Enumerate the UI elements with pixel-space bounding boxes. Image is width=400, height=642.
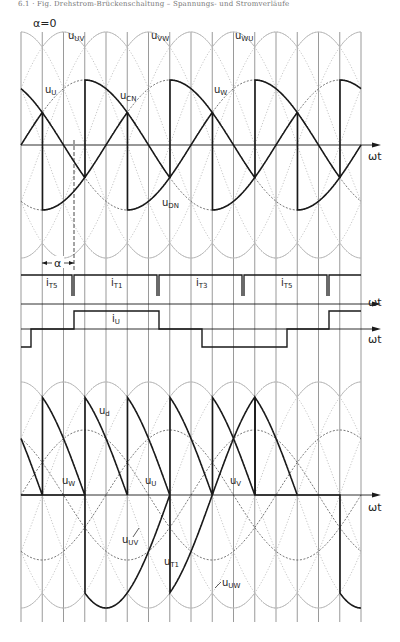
u-uw-leader-line <box>215 582 221 588</box>
u-d-label: ud <box>99 405 110 418</box>
u-w-bot-label: uW <box>62 475 75 488</box>
i-u-label: iU <box>112 313 120 326</box>
u-uv-bot-label: uUV <box>122 534 138 547</box>
time-axes <box>21 143 381 498</box>
i-t5-b-label: iT5 <box>281 277 293 290</box>
waveform-diagram: α=0 uUV uVW uWU uU uCN uW uDN ωt ωt ωt ω… <box>0 0 400 642</box>
u-uv-label: uUV <box>68 30 84 43</box>
u-t1-label: uT1 <box>164 556 179 569</box>
alpha-zero-label: α=0 <box>33 17 56 30</box>
u-v-bot-label: uV <box>230 475 241 488</box>
i-t1-label: iT1 <box>111 277 123 290</box>
u-wu-label: uWU <box>235 30 253 43</box>
u-vw-label: uVW <box>151 30 169 43</box>
u-dn-label: uDN <box>162 197 179 210</box>
omega-t-label-3: ωt <box>368 333 382 346</box>
omega-t-label-4: ωt <box>368 501 382 514</box>
u-uw-label: uUW <box>222 577 240 590</box>
omega-t-label-1: ωt <box>368 150 382 163</box>
svg-text:α: α <box>54 257 61 270</box>
u-w-top-label: uW <box>214 84 227 97</box>
u-cn-label: uCN <box>120 90 136 103</box>
u-u-bot-label: uU <box>145 475 156 488</box>
vertical-grid-lines <box>21 32 361 622</box>
u-u-top-label: uU <box>45 84 56 97</box>
u-uv-leader-line <box>133 528 139 537</box>
i-t3-label: iT3 <box>196 277 208 290</box>
omega-t-label-2: ωt <box>368 296 382 309</box>
i-t5-a-label: iT5 <box>46 277 58 290</box>
